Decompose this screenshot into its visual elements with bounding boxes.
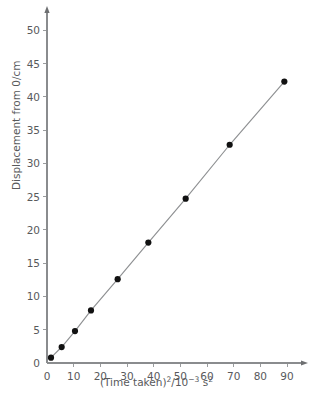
y-axis-arrow-icon (44, 6, 49, 13)
tick-marks (43, 30, 287, 367)
y-tick-label: 10 (12, 291, 40, 302)
y-tick-label: 15 (12, 258, 40, 269)
series-trend-line (51, 82, 284, 358)
chart-container: 05101520253035404550 0102030405060708090… (0, 0, 313, 402)
x-axis-arrow-icon (301, 360, 308, 365)
data-point (281, 78, 287, 84)
data-point (59, 344, 65, 350)
data-point (183, 196, 189, 202)
x-axis-title: (Time taken)2/10−3 s2 (0, 377, 313, 388)
y-tick-label: 0 (12, 358, 40, 369)
data-point (88, 307, 94, 313)
data-point (48, 355, 54, 361)
data-point (145, 239, 151, 245)
y-tick-label: 5 (12, 324, 40, 335)
data-point (227, 142, 233, 148)
data-point (115, 276, 121, 282)
y-tick-label: 20 (12, 225, 40, 236)
data-point (72, 328, 78, 334)
chart-axes (44, 6, 308, 366)
y-axis-title: Displacement from 0/cm (11, 25, 22, 225)
chart-plot-area (0, 0, 313, 402)
